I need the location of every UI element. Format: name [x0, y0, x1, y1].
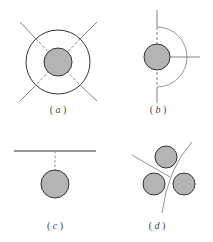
- panel-label-b: ( b ): [150, 104, 167, 116]
- diagonal-line-solid: [20, 86, 35, 101]
- panel-c: ( c ): [14, 151, 96, 232]
- gray-particle-bottom-right: [173, 173, 195, 195]
- gray-particle: [41, 170, 69, 198]
- gray-particle: [44, 48, 72, 76]
- panel-label-a: ( a ): [50, 104, 67, 116]
- panel-a: ( a ): [20, 22, 97, 116]
- diagonal-line-solid: [81, 22, 97, 38]
- gray-particle-bottom-left: [143, 173, 165, 195]
- panel-label-c: ( c ): [47, 220, 63, 232]
- diagonal-line-solid: [20, 22, 35, 38]
- panel-label-d: ( d ): [149, 220, 166, 232]
- gray-particle-top: [155, 146, 177, 168]
- panel-d: ( d ): [132, 142, 195, 232]
- gray-particle: [144, 44, 170, 70]
- figure-canvas: ( a ) ( b ) ( c ) ( d ): [0, 0, 213, 242]
- panel-b: ( b ): [144, 10, 200, 116]
- diagonal-line-solid: [81, 86, 97, 101]
